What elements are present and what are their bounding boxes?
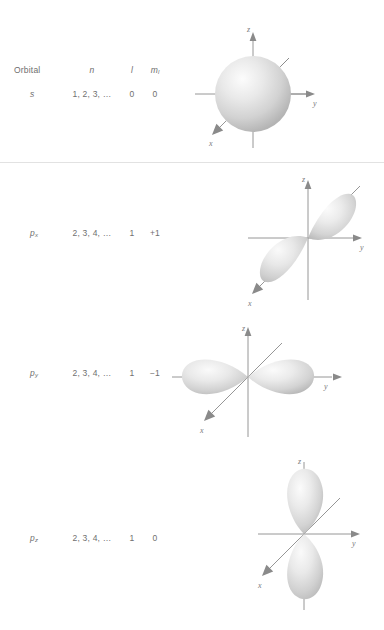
row-l-value: 1 <box>124 368 140 378</box>
header-ml-symbol: m <box>151 65 158 75</box>
row-l-value: 1 <box>124 228 140 238</box>
y-axis-label: y <box>312 99 317 108</box>
x-axis-front-tip <box>281 58 289 66</box>
row-n-value: 2, 3, 4, … <box>62 368 122 378</box>
px-lobe-positive <box>308 194 356 240</box>
pz-lobe-negative <box>287 534 323 599</box>
py-lobe-positive <box>248 359 314 394</box>
pz-orbital-diagram: z y x <box>224 458 384 618</box>
z-axis-arrowhead <box>305 180 312 189</box>
row-n-value: 1, 2, 3, … <box>62 89 122 99</box>
z-axis-label: z <box>297 457 302 466</box>
py-lobe-negative <box>182 359 248 394</box>
table-header-row: Orbital n l ml <box>0 61 185 79</box>
orbital-symbol: s <box>30 89 34 99</box>
orbital-subscript: y <box>35 372 38 378</box>
row-l-value: 0 <box>124 89 140 99</box>
z-axis-label: z <box>246 25 251 34</box>
pz-lobe-positive <box>287 469 323 534</box>
orbital-figure: Orbital n l ml s 1, 2, 3, … 0 0 px 2, 3,… <box>0 0 384 630</box>
z-axis-arrowhead <box>245 327 252 336</box>
y-axis-arrowhead <box>333 374 342 381</box>
px-orbital-diagram: z y x <box>208 172 384 312</box>
row-ml-value: 0 <box>142 533 168 543</box>
x-axis-label: x <box>257 581 262 590</box>
y-axis-arrowhead <box>306 91 315 98</box>
z-axis-arrowhead <box>250 32 257 41</box>
table-row: s 1, 2, 3, … 0 0 <box>0 85 185 103</box>
row-n-value: 2, 3, 4, … <box>62 228 122 238</box>
z-axis-label: z <box>301 175 306 184</box>
orbital-subscript: z <box>35 537 38 543</box>
section-divider <box>0 162 384 163</box>
header-orbital: Orbital <box>14 65 60 75</box>
row-n-value: 2, 3, 4, … <box>62 533 122 543</box>
header-l: l <box>124 65 140 75</box>
s-orbital-sphere <box>215 56 291 132</box>
header-n: n <box>62 65 122 75</box>
y-axis-label: y <box>359 243 364 252</box>
header-ml-subscript: l <box>158 69 159 75</box>
py-orbital-diagram: z y x <box>152 325 352 445</box>
y-axis-label: y <box>351 539 356 548</box>
row-ml-value: +1 <box>142 228 168 238</box>
x-axis-label: x <box>247 299 252 308</box>
px-lobe-negative <box>260 236 308 282</box>
z-axis-label: z <box>241 324 246 333</box>
header-ml: ml <box>142 65 168 75</box>
row-l-value: 1 <box>124 533 140 543</box>
y-axis-arrowhead <box>353 235 362 242</box>
x-axis-label: x <box>208 139 213 148</box>
y-axis-label: y <box>323 382 328 391</box>
orbital-subscript: x <box>35 232 38 238</box>
y-axis-arrowhead <box>351 531 360 538</box>
table-row: px 2, 3, 4, … 1 +1 <box>0 224 185 242</box>
s-orbital-diagram: z y x <box>185 18 384 158</box>
x-axis-label: x <box>199 426 204 435</box>
table-row: pz 2, 3, 4, … 1 0 <box>0 529 185 547</box>
orbital-table: Orbital n l ml s 1, 2, 3, … 0 0 px 2, 3,… <box>0 0 185 630</box>
row-ml-value: 0 <box>142 89 168 99</box>
